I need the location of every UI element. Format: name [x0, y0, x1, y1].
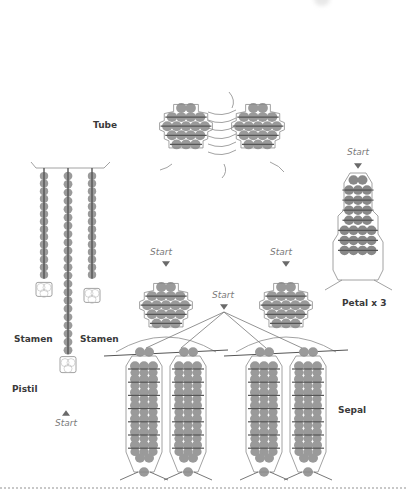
- clear-bead-icon: [64, 365, 72, 373]
- thread-tail: [229, 92, 233, 108]
- bead-icon: [135, 347, 145, 357]
- petal-diagram: [325, 163, 392, 290]
- thread-line: [240, 472, 258, 480]
- pistil-label: Pistil: [12, 384, 38, 394]
- arrow-down-icon: [162, 261, 170, 267]
- thread-tail: [208, 134, 236, 139]
- tube-label: Tube: [93, 120, 117, 130]
- bead-icon: [358, 175, 368, 185]
- bead-icon: [144, 453, 154, 463]
- arrow-down-icon: [354, 163, 362, 169]
- thread-line: [224, 350, 348, 356]
- arrow-down-icon: [282, 261, 290, 267]
- sepal-label: Sepal: [338, 405, 366, 415]
- bead-icon: [255, 453, 265, 463]
- thread-tail: [208, 110, 236, 115]
- thread-line: [284, 472, 302, 480]
- clear-bead-icon: [43, 283, 51, 291]
- arrow-up-icon: [62, 410, 70, 416]
- sepal-diagram: [104, 282, 348, 480]
- thread-line: [164, 472, 182, 480]
- stamen-right-label: Stamen: [80, 334, 119, 344]
- thread-line: [104, 350, 228, 356]
- bead-icon: [188, 453, 198, 463]
- thread-tail: [222, 164, 226, 178]
- thread-tail: [374, 280, 392, 290]
- divider-dotted-line: [0, 487, 406, 489]
- thread-line: [120, 472, 138, 480]
- thread-line: [270, 472, 288, 480]
- bead-icon: [188, 347, 198, 357]
- thread-tail: [208, 118, 236, 123]
- sepal-right-start-label: Start: [261, 247, 301, 257]
- clear-bead-icon: [91, 289, 99, 297]
- thread-tail: [31, 162, 36, 168]
- thread-line: [314, 472, 332, 480]
- thread-line: [150, 472, 168, 480]
- thread-tail: [325, 280, 342, 290]
- petal-start-label: Start: [338, 147, 378, 157]
- thread-tail: [236, 337, 336, 352]
- bead-icon: [299, 347, 309, 357]
- bead-icon: [264, 453, 274, 463]
- bead-icon: [349, 175, 359, 185]
- tube-diagram: [160, 92, 285, 178]
- pistil-start-label: Start: [46, 418, 86, 428]
- stamen-left-label: Stamen: [14, 334, 53, 344]
- sepal-left-start-label: Start: [141, 247, 181, 257]
- sepal-middle-start-label: Start: [203, 290, 243, 300]
- bead-icon: [308, 347, 318, 357]
- thread-tail: [208, 150, 236, 155]
- thread-tail: [208, 142, 236, 147]
- thread-tail: [116, 337, 216, 352]
- thread-line: [194, 472, 212, 480]
- petal-label: Petal x 3: [342, 298, 387, 308]
- stamen-pistil-diagram: [31, 162, 110, 416]
- thread-tail: [160, 164, 172, 170]
- bead-icon: [179, 453, 189, 463]
- bead-icon: [144, 347, 154, 357]
- arrow-down-icon: [220, 304, 228, 310]
- bead-icon: [179, 347, 189, 357]
- start-pointer-line: [224, 312, 266, 348]
- thread-tail: [104, 162, 110, 168]
- bead-icon: [264, 347, 274, 357]
- clear-bead-icon: [67, 359, 75, 367]
- bead-icon: [255, 347, 265, 357]
- bead-icon: [135, 453, 145, 463]
- bead-icon: [299, 453, 309, 463]
- bead-icon: [308, 453, 318, 463]
- thread-tail: [270, 162, 284, 172]
